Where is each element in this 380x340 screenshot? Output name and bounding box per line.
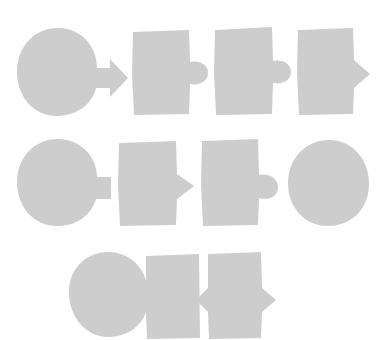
- row-2-graphics: [0, 128, 380, 228]
- piece-circle-with-arrow-tab: [17, 28, 128, 116]
- row-1-graphics: [0, 16, 380, 116]
- piece-square-with-notch-and-point: [196, 252, 276, 339]
- piece-square-with-point-tab: [118, 141, 194, 226]
- puzzle-row-1: [0, 16, 380, 116]
- puzzle-row-2: [0, 128, 380, 228]
- row-3-graphics: [0, 245, 380, 340]
- piece-square-with-round-tab-a: [132, 30, 208, 115]
- piece-square-with-left-notch: [134, 254, 200, 339]
- puzzle-row-3: [0, 245, 380, 340]
- diagram-canvas: [0, 0, 380, 340]
- piece-square-with-round-tab-b: [214, 27, 291, 115]
- piece-square-with-round-tab: [201, 139, 278, 226]
- piece-circle-with-flat-tab: [17, 139, 111, 226]
- piece-plain-circle: [288, 140, 369, 226]
- piece-square-with-point-tab: [297, 28, 370, 115]
